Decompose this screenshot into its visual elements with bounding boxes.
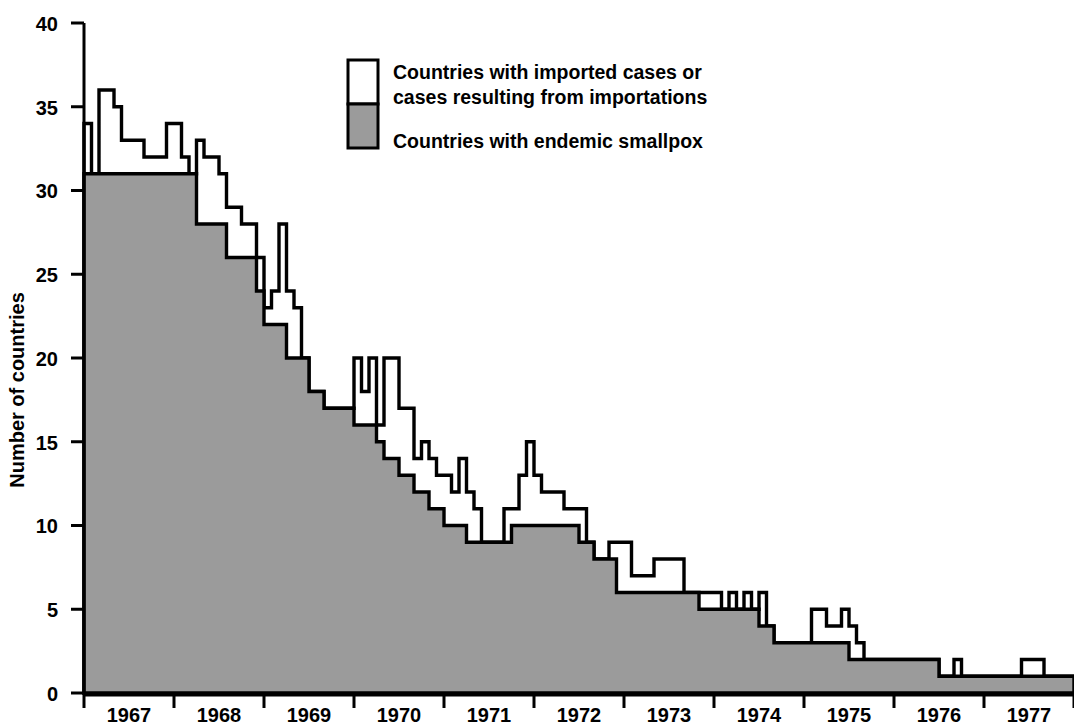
legend-label-imported-line2: cases resulting from importations bbox=[393, 86, 707, 108]
y-tick-25: 25 bbox=[36, 264, 58, 286]
y-tick-0: 0 bbox=[47, 683, 58, 705]
x-tick-1974: 1974 bbox=[737, 704, 782, 726]
y-tick-35: 35 bbox=[36, 97, 58, 119]
y-tick-20: 20 bbox=[36, 348, 58, 370]
chart-canvas: 40 35 30 25 20 15 10 5 0 Number of count… bbox=[0, 0, 1074, 728]
x-tick-1967: 1967 bbox=[107, 704, 152, 726]
legend-swatch-endemic bbox=[348, 104, 378, 148]
y-tick-30: 30 bbox=[36, 180, 58, 202]
smallpox-countries-chart: 40 35 30 25 20 15 10 5 0 Number of count… bbox=[0, 0, 1074, 728]
x-tick-1970: 1970 bbox=[377, 704, 422, 726]
x-tick-1968: 1968 bbox=[197, 704, 242, 726]
legend-label-imported-line1: Countries with imported cases or bbox=[393, 61, 702, 83]
legend-label-endemic: Countries with endemic smallpox bbox=[393, 130, 703, 152]
legend-swatch-imported bbox=[348, 60, 378, 104]
x-tick-1976: 1976 bbox=[917, 704, 962, 726]
y-tick-15: 15 bbox=[36, 432, 58, 454]
chart-legend: Countries with imported cases or cases r… bbox=[348, 60, 707, 152]
x-tick-1975: 1975 bbox=[827, 704, 872, 726]
x-tick-1972: 1972 bbox=[557, 704, 602, 726]
y-tick-10: 10 bbox=[36, 515, 58, 537]
x-tick-1969: 1969 bbox=[287, 704, 332, 726]
x-tick-1971: 1971 bbox=[467, 704, 512, 726]
y-axis-title: Number of countries bbox=[6, 292, 28, 488]
x-tick-1977: 1977 bbox=[1007, 704, 1052, 726]
x-tick-1973: 1973 bbox=[647, 704, 692, 726]
y-tick-40: 40 bbox=[36, 13, 58, 35]
y-tick-5: 5 bbox=[47, 599, 58, 621]
